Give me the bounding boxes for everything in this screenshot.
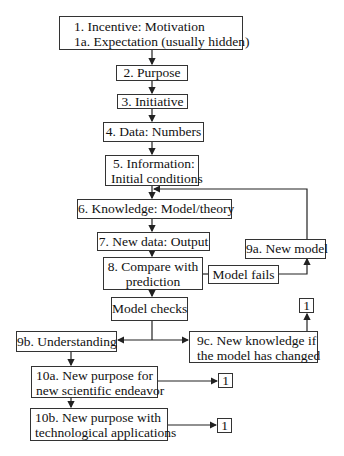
node-text: 5. Information: <box>111 156 198 171</box>
node-text: 1. Incentive: Motivation <box>74 19 242 34</box>
node-purpose: 2. Purpose <box>116 65 188 81</box>
node-text: 9a. New model <box>246 240 325 258</box>
node-text: Initial conditions <box>111 171 198 186</box>
node-text: 3. Initiative <box>118 95 187 108</box>
node-text: 4. Data: Numbers <box>104 123 203 141</box>
node-text: prediction <box>104 274 202 289</box>
node-new-purpose-scientific: 10a. New purpose for new scientific ende… <box>31 366 158 398</box>
node-new-model: 9a. New model <box>245 239 326 259</box>
ref-box-1-10b: 1 <box>217 418 232 433</box>
node-new-knowledge: 9c. New knowledge if the model has chang… <box>189 331 318 363</box>
ref-box-1-10a: 1 <box>218 373 233 388</box>
node-knowledge: 6. Knowledge: Model/theory <box>77 199 232 219</box>
node-text: 2. Purpose <box>117 66 187 80</box>
node-new-data: 7. New data: Output <box>97 232 210 251</box>
node-text: 9b. Understanding <box>17 332 116 351</box>
node-text: 6. Knowledge: Model/theory <box>78 200 231 218</box>
node-data: 4. Data: Numbers <box>103 122 204 142</box>
node-compare: 8. Compare with prediction <box>103 257 203 290</box>
node-text: new scientific endeavor <box>36 383 157 398</box>
node-initiative: 3. Initiative <box>117 94 188 109</box>
node-text: technological applications <box>35 425 167 440</box>
node-text: 8. Compare with <box>104 259 202 274</box>
node-text: 10b. New purpose with <box>35 410 167 425</box>
node-text: 1 <box>219 374 232 387</box>
node-model-fails: Model fails <box>208 265 279 284</box>
node-text: 1a. Expectation (usually hidden) <box>74 34 242 49</box>
node-text: 10a. New purpose for <box>36 368 157 383</box>
node-model-checks: Model checks <box>111 297 188 321</box>
node-text: 9c. New knowledge if <box>197 333 317 348</box>
node-text: Model fails <box>209 266 278 283</box>
node-incentive: 1. Incentive: Motivation 1a. Expectation… <box>59 16 243 50</box>
node-understanding: 9b. Understanding <box>16 331 117 352</box>
node-text: the model has changed <box>197 348 317 363</box>
node-text: 1 <box>218 419 231 432</box>
ref-box-1-top: 1 <box>299 298 314 313</box>
node-text: 7. New data: Output <box>98 233 209 250</box>
node-new-purpose-technological: 10b. New purpose with technological appl… <box>30 408 168 441</box>
node-text: Model checks <box>112 298 187 320</box>
node-text: 1 <box>300 299 313 312</box>
node-information: 5. Information: Initial conditions <box>105 155 199 186</box>
